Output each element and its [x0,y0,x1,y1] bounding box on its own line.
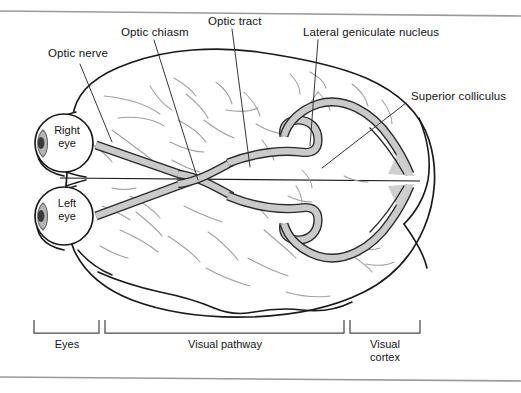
bracket-label-visual-cortex-line2: cortex [350,351,420,364]
bracket-eyes [34,320,99,333]
callout-label-superior-colliculus: Superior colliculus [411,90,506,103]
brain-outline [65,49,434,317]
bracket-group [34,320,420,333]
bottom-rule [0,377,521,381]
callout-label-lateral-geniculate-nucleus: Lateral geniculate nucleus [303,26,439,39]
visual-pathway-figure: Optic nerve Optic chiasm Optic tract Lat… [0,0,521,393]
eye-label-left-line2: eye [46,210,88,223]
bracket-label-visual-pathway-line1: Visual pathway [105,338,345,351]
callout-label-optic-tract: Optic tract [208,15,262,28]
left-eye-pupil [38,210,45,222]
right-eye-pupil [38,137,45,149]
brain-outline-group [60,49,435,317]
eye-label-right-eye: Right eye [46,124,88,149]
bracket-visual-cortex [350,320,420,333]
callout-label-optic-chiasm: Optic chiasm [121,26,189,39]
bracket-label-eyes: Eyes [34,338,100,351]
bracket-visual-pathway [105,320,344,333]
bracket-label-visual-pathway: Visual pathway [105,338,345,351]
eye-label-left-eye: Left eye [46,197,88,222]
eye-label-right-line2: eye [46,137,88,150]
eye-label-right-line1: Right [46,124,88,137]
bracket-label-visual-cortex: Visual cortex [350,338,420,364]
callout-label-optic-nerve: Optic nerve [48,47,108,60]
eye-label-left-line1: Left [46,197,88,210]
bracket-label-eyes-line1: Eyes [34,338,100,351]
bracket-label-visual-cortex-line1: Visual [350,338,420,351]
